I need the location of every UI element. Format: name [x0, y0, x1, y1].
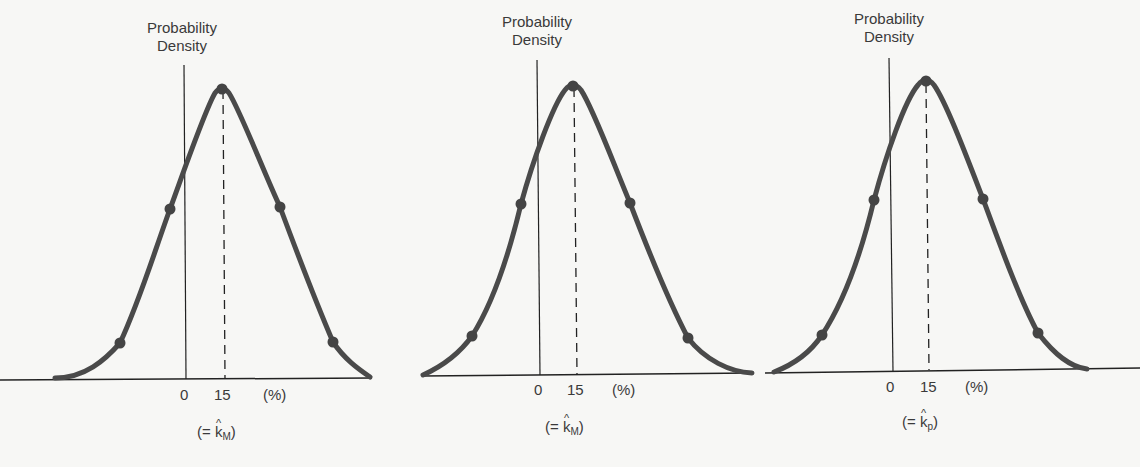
point-plus-2sd [328, 337, 339, 348]
point-plus-1sd [275, 202, 286, 213]
point-mean [921, 76, 932, 87]
estimate-annotation: (= kM) [545, 418, 584, 441]
x-unit: (%) [612, 381, 635, 399]
y-axis-label: ProbabilityDensity [829, 10, 949, 46]
x-unit: (%) [263, 386, 286, 404]
point-mean [217, 84, 228, 95]
mean-dashed-line [926, 84, 929, 370]
mean-dashed-line [574, 88, 577, 375]
x-tick-15: 15 [567, 381, 584, 399]
x-axis [422, 373, 753, 376]
y-axis [184, 65, 186, 379]
point-mean [568, 81, 579, 92]
chart-2 [422, 60, 753, 376]
y-axis-label-text: ProbabilityDensity [854, 10, 924, 45]
chart-1 [0, 65, 372, 380]
point-plus-2sd [1033, 328, 1044, 339]
point-minus-1sd [165, 204, 176, 215]
x-tick-15: 15 [920, 378, 937, 396]
y-axis-label: ProbabilityDensity [122, 19, 242, 55]
density-curve [55, 89, 370, 379]
x-tick-15: 15 [214, 386, 231, 404]
chart-3 [765, 58, 1140, 373]
y-axis [537, 60, 540, 375]
estimate-annotation: (= kp) [902, 413, 938, 436]
point-minus-2sd [115, 338, 126, 349]
x-tick-0: 0 [534, 381, 542, 399]
point-minus-1sd [869, 195, 880, 206]
point-plus-2sd [683, 333, 694, 344]
y-axis-label-text: ProbabilityDensity [147, 19, 217, 54]
y-axis [889, 58, 893, 371]
point-minus-2sd [467, 331, 478, 342]
mean-dashed-line [223, 90, 225, 379]
x-tick-0: 0 [886, 378, 894, 396]
point-plus-1sd [978, 194, 989, 205]
point-minus-1sd [516, 199, 527, 210]
y-axis-label-text: ProbabilityDensity [502, 13, 572, 48]
x-tick-0: 0 [180, 386, 188, 404]
y-axis-label: ProbabilityDensity [477, 13, 597, 49]
point-minus-2sd [817, 330, 828, 341]
estimate-annotation: (= kM) [197, 423, 236, 446]
point-plus-1sd [625, 198, 636, 209]
x-unit: (%) [965, 378, 988, 396]
